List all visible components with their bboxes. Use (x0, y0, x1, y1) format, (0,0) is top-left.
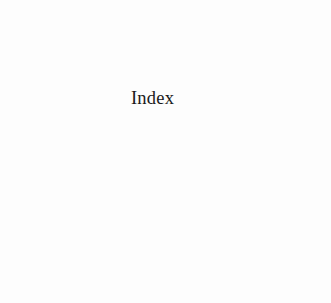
page-title: Index (131, 89, 174, 108)
document-page: Index (0, 0, 331, 303)
